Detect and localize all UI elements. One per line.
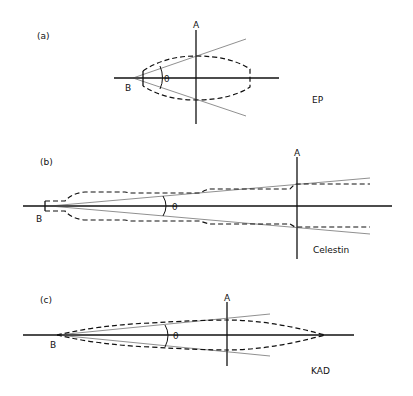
axis-a-label: A bbox=[193, 20, 200, 30]
panel-a-name: EP bbox=[312, 95, 324, 105]
panel-c: (c) A θ B KAD bbox=[23, 293, 354, 376]
panel-c-tag: (c) bbox=[40, 295, 52, 305]
upper-ray bbox=[133, 39, 246, 78]
angle-label: θ bbox=[172, 202, 178, 212]
diagram-canvas: (a) A θ B EP (b) A θ B Celestin (c) A bbox=[0, 0, 413, 396]
panel-a: (a) A θ B EP bbox=[37, 20, 324, 124]
angle-label: θ bbox=[164, 74, 170, 84]
panel-b-name: Celestin bbox=[313, 245, 349, 255]
upper-ray bbox=[50, 178, 370, 206]
axis-a-label: A bbox=[224, 293, 231, 303]
point-b-label: B bbox=[50, 340, 56, 350]
panel-c-name: KAD bbox=[311, 366, 330, 376]
panel-b-tag: (b) bbox=[40, 157, 53, 167]
point-b-label: B bbox=[125, 83, 131, 93]
angle-arc bbox=[165, 325, 168, 347]
upper-ray bbox=[57, 314, 270, 335]
axis-a-label: A bbox=[294, 148, 301, 158]
lower-ray bbox=[50, 206, 370, 234]
lower-ray bbox=[57, 335, 270, 356]
lower-ray bbox=[133, 78, 246, 116]
point-b-label: B bbox=[36, 214, 42, 224]
kad-lower-profile bbox=[57, 335, 325, 350]
kad-upper-profile bbox=[57, 320, 325, 335]
panel-a-tag: (a) bbox=[37, 31, 50, 41]
celestin-lower-profile bbox=[45, 211, 370, 227]
angle-label: θ bbox=[173, 331, 179, 341]
panel-b: (b) A θ B Celestin bbox=[23, 148, 392, 259]
